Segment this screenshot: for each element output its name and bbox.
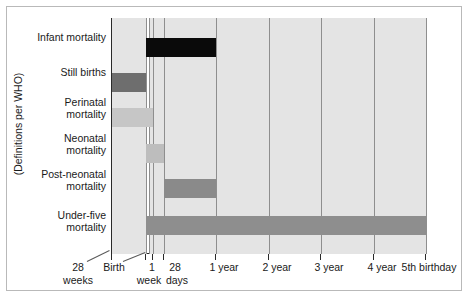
- xlabel-1-year: 1 year: [209, 261, 238, 273]
- shade-band-pre-birth: [112, 18, 146, 254]
- xlabel-2-year: 2 year: [262, 261, 291, 273]
- xtick-birth: [145, 254, 146, 260]
- bar-post-neonatal-mortality: [164, 179, 216, 198]
- plot-area: [111, 18, 426, 254]
- xlabel-28-weeks-line2: weeks: [63, 274, 93, 286]
- xlabel-birth: Birth: [103, 261, 125, 273]
- xtick-5th-birthday: [425, 254, 426, 260]
- y-label-perinatal-mortality: Perinatal mortality: [4, 97, 106, 120]
- y-label-neonatal-mortality: Neonatal mortality: [4, 133, 106, 156]
- bar-neonatal-mortality: [146, 144, 164, 163]
- leader-line-birth: [123, 252, 146, 262]
- bar-infant-mortality: [146, 38, 216, 57]
- xtick-4-year: [373, 254, 374, 260]
- bar-still-births: [112, 73, 146, 92]
- xlabel-1-week-line2: week: [137, 274, 162, 286]
- y-axis-labels: Infant mortality Still births Perinatal …: [0, 18, 106, 254]
- x-axis: 28 weeks Birth 1 week 28 days 1 year 2 y…: [111, 254, 427, 296]
- xlabel-1-week-line1: 1: [149, 261, 155, 273]
- xtick-2-year: [268, 254, 269, 260]
- y-label-under-five-mortality: Under-five mortality: [4, 210, 106, 233]
- xtick-28-days: [163, 254, 164, 260]
- y-label-still-births: Still births: [4, 67, 106, 79]
- xtick-1-year: [215, 254, 216, 260]
- xtick-28-weeks: [111, 254, 112, 260]
- xlabel-4-year: 4 year: [367, 261, 396, 273]
- xlabel-5th-birthday: 5th birthday: [402, 261, 457, 273]
- chart-figure: (Definitions per WHO) Infant mortality S…: [0, 0, 469, 298]
- xlabel-28-days-line1: 28: [169, 261, 181, 273]
- bar-perinatal-mortality: [112, 108, 153, 127]
- bar-under-five-mortality: [146, 216, 427, 235]
- y-label-infant-mortality: Infant mortality: [4, 32, 106, 44]
- y-label-post-neonatal-mortality: Post-neonatal mortality: [4, 169, 106, 192]
- xtick-1-week: [152, 254, 153, 260]
- xlabel-3-year: 3 year: [314, 261, 343, 273]
- xlabel-28-days-line2: days: [166, 274, 188, 286]
- xtick-3-year: [320, 254, 321, 260]
- xlabel-28-weeks-line1: 28: [72, 261, 84, 273]
